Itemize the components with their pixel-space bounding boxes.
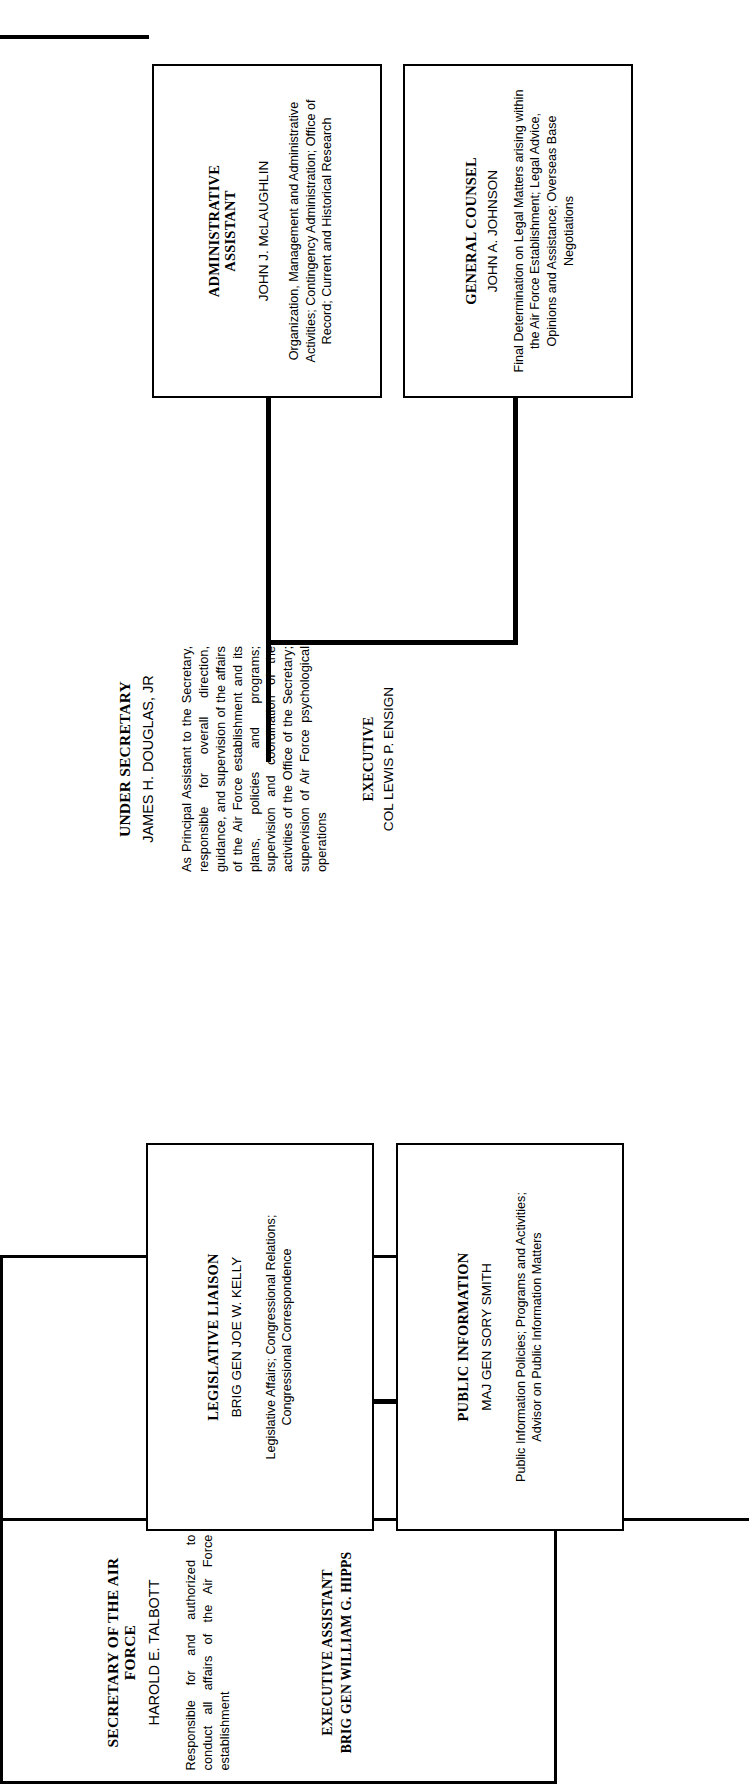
- legislative-liaison-description: Legislative Affairs; Congressional Relat…: [263, 1187, 296, 1487]
- administrative-assistant-description: Organization, Management and Administrat…: [286, 85, 336, 377]
- executive-title: EXECUTIVE: [361, 716, 377, 801]
- public-information-person: MAJ GEN SORY SMITH: [479, 1263, 495, 1410]
- node-administrative-assistant[interactable]: ADMINISTRATIVE ASSISTANT JOHN J. McLAUGH…: [152, 64, 382, 398]
- general-counsel-title: GENERAL COUNSEL: [463, 157, 479, 305]
- secretary-description: Responsible for and authorized to conduc…: [183, 1535, 234, 1771]
- legislative-liaison-title: LEGISLATIVE LIAISON: [205, 1253, 221, 1421]
- under-secretary-title: UNDER SECRETARY: [116, 681, 133, 837]
- executive-assistant-person: BRIG GEN WILLIAM G. HIPPS: [339, 1552, 354, 1754]
- public-information-description: Public Information Policies; Programs an…: [513, 1187, 546, 1487]
- node-general-counsel[interactable]: GENERAL COUNSEL JOHN A. JOHNSON Final De…: [403, 64, 633, 398]
- node-secretary-of-the-air-force[interactable]: SECRETARY OF THE AIR FORCE HAROLD E. TAL…: [0, 1518, 749, 1784]
- administrative-assistant-title: ADMINISTRATIVE ASSISTANT: [206, 141, 238, 321]
- executive-assistant-title: EXECUTIVE ASSISTANT: [320, 1569, 336, 1736]
- public-information-title: PUBLIC INFORMATION: [455, 1253, 471, 1422]
- node-public-information[interactable]: PUBLIC INFORMATION MAJ GEN SORY SMITH Pu…: [396, 1143, 624, 1531]
- legislative-liaison-person: BRIG GEN JOE W. KELLY: [229, 1257, 245, 1417]
- org-chart-page: SECRETARY OF THE AIR FORCE HAROLD E. TAL…: [0, 0, 749, 1784]
- org-chart-stage: SECRETARY OF THE AIR FORCE HAROLD E. TAL…: [0, 0, 749, 1784]
- general-counsel-person: JOHN A. JOHNSON: [485, 170, 501, 292]
- secretary-title: SECRETARY OF THE AIR FORCE: [104, 1533, 139, 1773]
- general-counsel-description: Final Determination on Legal Matters ari…: [511, 89, 577, 373]
- administrative-assistant-person: JOHN J. McLAUGHLIN: [256, 161, 272, 301]
- secretary-person: HAROLD E. TALBOTT: [146, 1579, 163, 1725]
- executive-person: COL LEWIS P. ENSIGN: [381, 687, 397, 831]
- under-secretary-person: JAMES H. DOUGLAS, JR: [140, 675, 157, 843]
- node-legislative-liaison[interactable]: LEGISLATIVE LIAISON BRIG GEN JOE W. KELL…: [146, 1143, 374, 1531]
- under-secretary-description: As Principal Assistant to the Secretary,…: [179, 646, 331, 872]
